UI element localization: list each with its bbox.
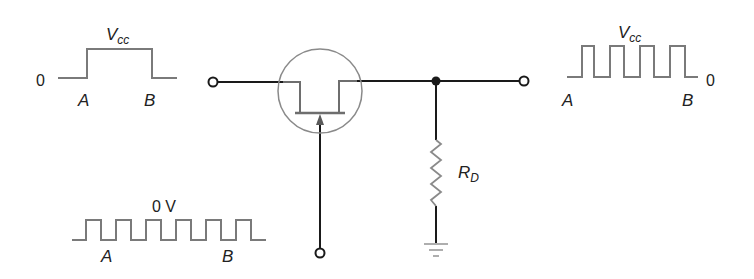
input-waveform: 0 Vcc A B xyxy=(36,25,177,110)
output-low-level-label: 0 xyxy=(706,72,715,89)
output-chopped-trace xyxy=(567,46,698,77)
gate-label-a: A xyxy=(100,247,112,266)
jfet-gate-arrow-icon xyxy=(316,114,324,125)
output-terminal xyxy=(520,77,529,86)
output-label-a: A xyxy=(561,91,573,110)
ground-icon xyxy=(424,244,448,256)
circuit-wiring xyxy=(209,77,529,258)
jfet-source-lead xyxy=(283,82,300,113)
gate-waveform: 0 V A B xyxy=(72,198,266,266)
jfet-drain-lead xyxy=(339,81,357,113)
input-label-b: B xyxy=(144,91,155,110)
input-low-level-label: 0 xyxy=(36,72,45,89)
input-label-a: A xyxy=(77,91,89,110)
input-high-level-label: Vcc xyxy=(106,25,129,47)
gate-terminal xyxy=(316,249,325,258)
resistor-zigzag xyxy=(431,140,441,206)
gate-square-trace xyxy=(72,220,266,240)
gate-label-b: B xyxy=(222,247,233,266)
gate-level-label: 0 V xyxy=(152,198,176,215)
output-high-level-label: Vcc xyxy=(618,23,641,45)
drain-resistor: RD xyxy=(431,140,479,206)
resistor-label: RD xyxy=(458,163,479,185)
input-terminal xyxy=(209,78,218,87)
output-label-b: B xyxy=(682,91,693,110)
circuit-diagram: 0 Vcc A B 0 V A B 0 Vcc A B xyxy=(0,0,754,279)
jfet-transistor xyxy=(278,49,362,133)
output-waveform: 0 Vcc A B xyxy=(561,23,715,110)
input-pulse-trace xyxy=(58,49,177,78)
